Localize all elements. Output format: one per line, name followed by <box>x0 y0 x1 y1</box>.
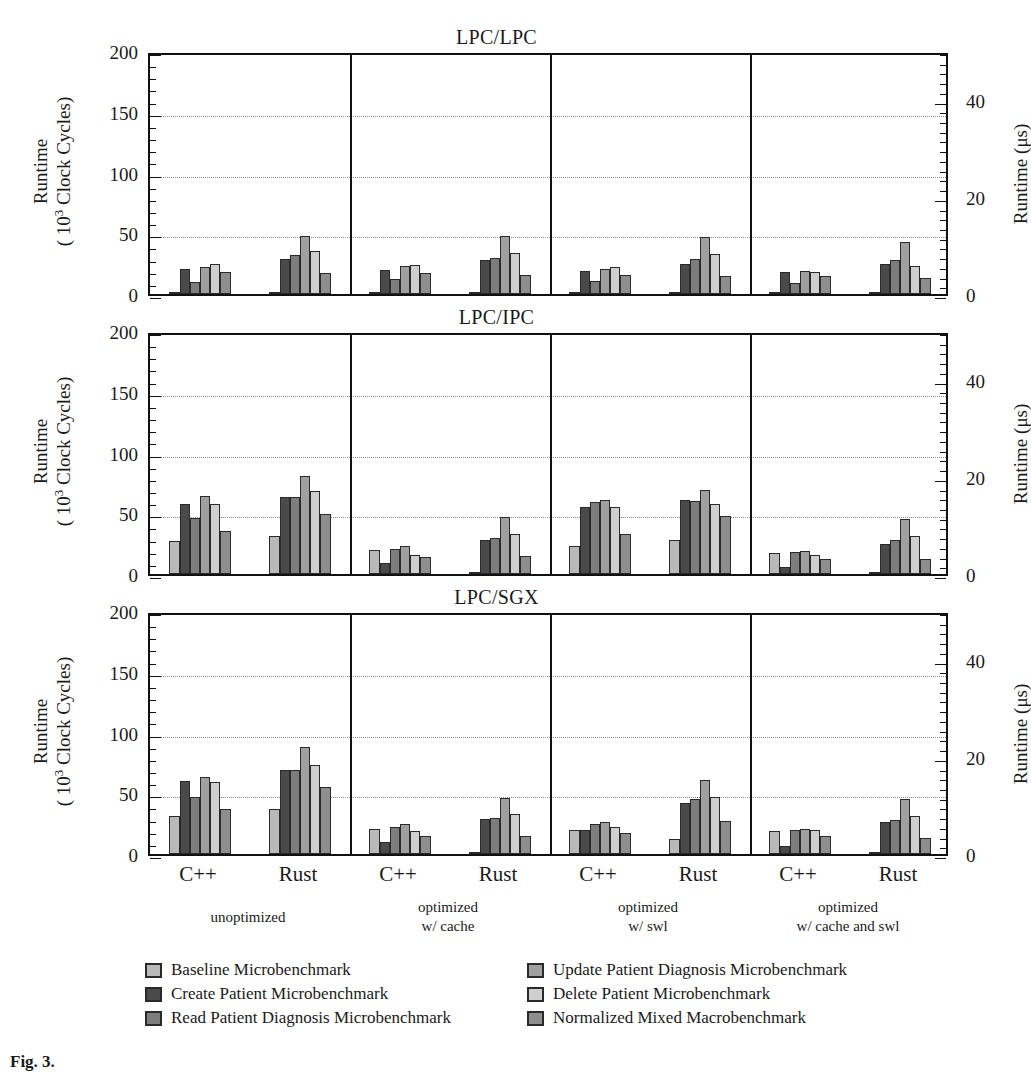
x-tick-label: C++ <box>379 862 417 887</box>
bar <box>920 838 930 854</box>
x-tick-label: C++ <box>779 862 817 887</box>
bar <box>700 490 710 574</box>
bar <box>769 292 779 294</box>
y-tick-right <box>935 858 946 859</box>
bar <box>790 283 800 294</box>
bar <box>880 822 890 854</box>
bar <box>290 770 300 854</box>
bar <box>480 540 490 574</box>
bar <box>190 518 200 574</box>
legend-item[interactable]: Delete Patient Microbenchmark <box>527 984 770 1004</box>
y-axis-label-left: 100 <box>72 444 138 466</box>
panel-title: LPC/LPC <box>0 26 993 49</box>
bar <box>810 272 820 294</box>
x-tick-label: Rust <box>279 862 318 887</box>
legend-label: Update Patient Diagnosis Microbenchmark <box>553 960 847 980</box>
bar <box>290 497 300 574</box>
bar <box>400 824 410 854</box>
bar <box>180 504 190 574</box>
bar <box>420 557 430 574</box>
bar <box>300 476 310 574</box>
bar <box>169 292 179 294</box>
bar <box>690 501 700 574</box>
y-axis-label-left: 150 <box>72 663 138 685</box>
plot-area <box>148 613 948 856</box>
bar <box>700 780 710 854</box>
legend-swatch-icon <box>527 1011 544 1026</box>
bar <box>820 836 830 854</box>
y-axis-title-left: Runtime( 103 Clock Cycles) <box>29 610 74 853</box>
bar <box>369 829 379 855</box>
bar <box>510 253 520 294</box>
bar <box>480 260 490 294</box>
bar <box>580 507 590 574</box>
bar <box>210 504 220 574</box>
bar <box>190 282 200 294</box>
bar <box>500 798 510 854</box>
bar <box>900 519 910 574</box>
bar <box>410 555 420 574</box>
bar <box>469 292 479 294</box>
bar <box>690 799 700 854</box>
bar <box>410 831 420 854</box>
bar <box>800 829 810 855</box>
legend-item[interactable]: Baseline Microbenchmark <box>145 960 351 980</box>
bar <box>200 267 210 294</box>
bar <box>590 824 600 854</box>
bar <box>790 830 800 854</box>
bar <box>869 852 879 854</box>
x-tick-label: Rust <box>679 862 718 887</box>
x-group-label-line1: unoptimized <box>211 908 286 927</box>
bar <box>690 259 700 294</box>
bar <box>890 820 900 854</box>
bar <box>920 278 930 294</box>
bar <box>910 816 920 854</box>
x-group-label-line1: optimized <box>618 898 678 917</box>
y-axis-title-left-line1: Runtime <box>29 418 50 483</box>
y-axis-title-left-line1: Runtime <box>29 698 50 763</box>
bar <box>280 497 290 574</box>
bar <box>220 272 230 294</box>
x-group-label-line1: optimized <box>797 898 900 917</box>
legend-swatch-icon <box>145 987 162 1002</box>
bar <box>220 809 230 854</box>
y-tick-left <box>150 578 161 579</box>
bar <box>320 514 330 574</box>
y-tick-left <box>150 858 161 859</box>
bar <box>590 502 600 574</box>
bar <box>810 830 820 854</box>
y-axis-label-left: 200 <box>72 602 138 624</box>
bar <box>910 266 920 294</box>
x-tick-label: Rust <box>879 862 918 887</box>
bar <box>569 830 579 854</box>
bar <box>610 267 620 294</box>
bar <box>320 787 330 854</box>
bar <box>710 254 720 294</box>
bar <box>720 821 730 854</box>
legend-item[interactable]: Read Patient Diagnosis Microbenchmark <box>145 1008 451 1028</box>
legend-label: Create Patient Microbenchmark <box>171 984 388 1004</box>
bar <box>880 544 890 574</box>
legend-item[interactable]: Create Patient Microbenchmark <box>145 984 388 1004</box>
bar <box>710 797 720 854</box>
legend-item[interactable]: Normalized Mixed Macrobenchmark <box>527 1008 806 1028</box>
legend-item[interactable]: Update Patient Diagnosis Microbenchmark <box>527 960 847 980</box>
x-group-label-line2: w/ cache <box>418 917 478 936</box>
y-axis-title-left: Runtime( 103 Clock Cycles) <box>29 50 74 293</box>
bar <box>210 782 220 854</box>
bar <box>369 550 379 574</box>
x-tick-label: Rust <box>479 862 518 887</box>
bar <box>769 553 779 574</box>
bar <box>500 517 510 574</box>
bar <box>600 500 610 574</box>
bar <box>169 816 179 854</box>
bar <box>669 540 679 574</box>
x-group-label-line1: optimized <box>418 898 478 917</box>
x-tick-label: C++ <box>579 862 617 887</box>
bar <box>300 747 310 854</box>
legend-label: Read Patient Diagnosis Microbenchmark <box>171 1008 451 1028</box>
bar <box>800 551 810 574</box>
bar <box>469 572 479 574</box>
bar <box>200 777 210 854</box>
